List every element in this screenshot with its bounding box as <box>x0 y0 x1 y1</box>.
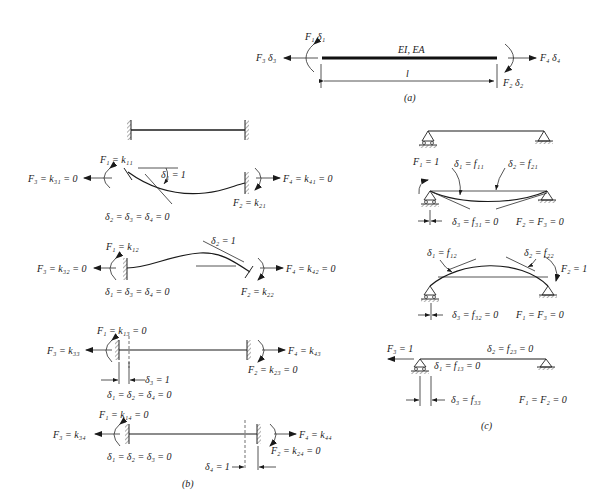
label-f2: F₂ = k₂₂ <box>240 286 274 297</box>
moment-arrow-icon <box>110 258 116 280</box>
label-f1: F₁ = k₁₄ = 0 <box>98 409 148 420</box>
label-d2: δ₂ = f₂₃ = 0 <box>487 343 533 354</box>
label-d1: δ₁ = f₁₃ = 0 <box>434 360 480 371</box>
part-c-case-1: F₁ = 1 δ₁ = f₁₁ δ₂ = f₂₁ δ₃ = f₃₁ = 0 F₂… <box>412 156 564 227</box>
label-d3: δ₃ = f₃₂ = 0 <box>452 309 498 320</box>
label-disp: δ₁ = 1 <box>161 169 186 180</box>
moment-arrow-icon <box>255 168 261 190</box>
label-f4: F₄ = k₄₄ <box>298 429 332 440</box>
label-f1: F₁ = k₁₃ = 0 <box>96 325 146 336</box>
label-f2: F₂ = k₂₄ = 0 <box>270 445 320 456</box>
label-f1: F₁ = k₁₂ <box>105 241 139 252</box>
label-load: F₁ = 1 <box>412 156 439 167</box>
label-f4: F₄ = k₄₂ = 0 <box>285 263 335 274</box>
label-f2: F₂ = k₂₁ <box>232 197 266 208</box>
label-zeros: F₁ = F₃ = 0 <box>515 309 564 320</box>
label-f3: F₃ = k₃₁ = 0 <box>27 173 77 184</box>
label-f2-d2: F₂ δ₂ <box>502 77 524 88</box>
part-b-fixed-beam <box>127 120 249 140</box>
part-b-case-3: F₁ = k₁₃ = 0 F₃ = k₃₃ F₄ = k₄₃ F₂ = k₂₃ … <box>46 325 321 400</box>
label-f4: F₄ = k₄₃ <box>287 345 321 356</box>
label-disp: δ₄ = 1 <box>205 461 230 472</box>
label-load: F₃ = 1 <box>386 343 413 354</box>
label-f3-d3: F₃ δ₃ <box>255 52 277 63</box>
label-f3: F₃ = k₃₃ <box>46 345 80 356</box>
label-f3: F₃ = k₃₄ <box>52 429 86 440</box>
label-d2: δ₂ = f₂₁ <box>508 158 538 169</box>
stiffness-flexibility-diagram: F₁ δ₁ F₃ δ₃ F₄ δ₄ F₂ δ₂ EI, EA l (a) F₁ … <box>0 0 596 492</box>
part-a-element: F₁ δ₁ F₃ δ₃ F₄ δ₄ F₂ δ₂ EI, EA l (a) <box>255 31 561 104</box>
caption-b: (b) <box>182 478 194 490</box>
label-disp: δ₂ = 1 <box>211 235 236 246</box>
label-f1-d1: F₁ δ₁ <box>304 31 325 42</box>
label-d2: δ₂ = f₂₂ <box>524 247 554 258</box>
moment-arrow-icon <box>258 258 264 280</box>
part-b-case-2: F₁ = k₁₂ F₃ = k₃₂ = 0 F₄ = k₄₂ = 0 F₂ = … <box>36 235 335 297</box>
caption-a: (a) <box>404 92 416 104</box>
label-d3: δ₃ = f₃₃ <box>451 394 481 405</box>
part-b-case-4: F₁ = k₁₄ = 0 F₃ = k₃₄ F₄ = k₄₄ F₂ = k₂₄ … <box>52 409 332 490</box>
label-f4: F₄ = k₄₁ = 0 <box>282 173 332 184</box>
moment-arrow-icon <box>114 424 120 446</box>
part-b-case-1: F₁ = k₁₁ F₃ = k₃₁ = 0 F₄ = k₄₁ = 0 F₂ = … <box>27 154 332 222</box>
label-zeros: δ₁ = δ₂ = δ₄ = 0 <box>107 389 172 400</box>
label-disp: δ₃ = 1 <box>145 374 170 385</box>
length-label: l <box>406 68 409 79</box>
caption-c: (c) <box>481 420 493 432</box>
label-d1: δ₁ = f₁₁ <box>454 158 484 169</box>
part-c-case-3: F₃ = 1 δ₂ = f₂₃ = 0 δ₁ = f₁₃ = 0 δ₃ = f₃… <box>386 343 567 432</box>
label-zeros: F₂ = F₃ = 0 <box>515 216 564 227</box>
moment-arrow-icon <box>106 340 112 362</box>
label-zeros: δ₁ = δ₂ = δ₃ = 0 <box>107 451 172 462</box>
part-c-case-2: δ₁ = f₁₂ δ₂ = f₂₂ F₂ = 1 δ₃ = f₃₂ = 0 F₁… <box>418 247 587 320</box>
moment-arrow-icon <box>258 340 264 362</box>
label-zeros: δ₂ = δ₃ = δ₄ = 0 <box>105 211 170 222</box>
label-f3: F₃ = k₃₂ = 0 <box>36 263 86 274</box>
beam-properties: EI, EA <box>397 44 426 55</box>
part-c-simple-beam <box>419 131 553 148</box>
label-load: F₂ = 1 <box>560 263 587 274</box>
label-f1: F₁ = k₁₁ <box>99 154 133 165</box>
label-d3: δ₃ = f₃₁ = 0 <box>452 216 498 227</box>
label-zeros: F₁ = F₂ = 0 <box>518 394 567 405</box>
label-zeros: δ₁ = δ₃ = δ₄ = 0 <box>105 286 170 297</box>
label-f2: F₂ = k₂₃ = 0 <box>247 364 297 375</box>
moment-arrow-icon <box>270 424 276 446</box>
moment-arrow-icon <box>419 180 428 194</box>
label-f4-d4: F₄ δ₄ <box>539 52 561 63</box>
label-d1: δ₁ = f₁₂ <box>427 247 457 258</box>
